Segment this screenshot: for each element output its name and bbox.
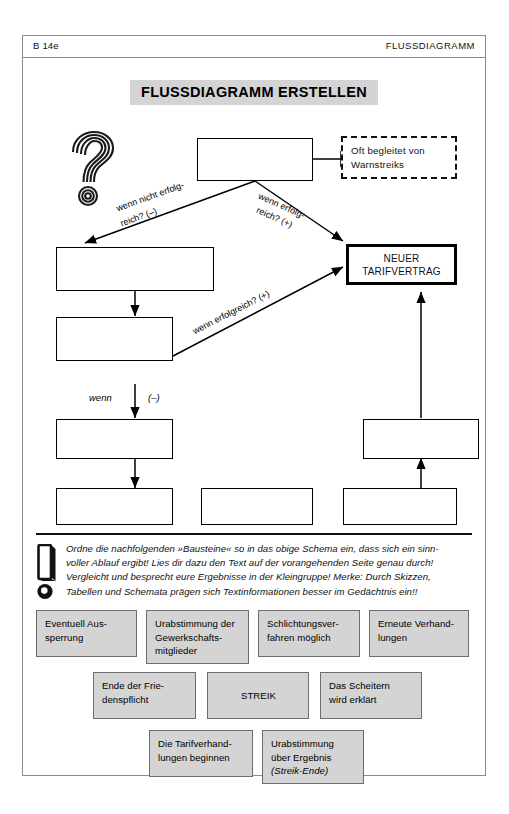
instruction-line-4: Tabellen und Schemata prägen sich Textin…: [66, 585, 472, 599]
tile-line: Erneute Verhand-: [378, 617, 461, 631]
tile-line: wird erklärt: [329, 693, 414, 707]
flow-box-result[interactable]: NEUER TARIFVERTRAG: [346, 244, 457, 285]
tile-line: denspflicht: [102, 693, 188, 707]
tile-line: Gewerkschafts-: [155, 631, 241, 645]
flowchart-diagram: Oft begleitet von Warnstreiks NEUER TARI…: [23, 36, 487, 506]
flow-box-top-center[interactable]: [197, 138, 313, 181]
instruction-divider: [36, 533, 472, 535]
flow-box-bottom-center[interactable]: [201, 488, 313, 525]
edge-label-wenn-word: wenn: [89, 392, 112, 403]
tile-line: über Ergebnis: [271, 751, 356, 765]
tile-line: mitglieder: [155, 644, 241, 658]
tile-schlichtungsverfahren[interactable]: Schlichtungsver- fahren möglich: [258, 610, 360, 657]
tile-line: fahren möglich: [267, 631, 352, 645]
tile-streik[interactable]: STREIK: [207, 672, 309, 719]
tile-erneute-verhandlungen[interactable]: Erneute Verhand- lungen: [369, 610, 469, 657]
tile-line: Schlichtungsver-: [267, 617, 352, 631]
building-block-bank: Eventuell Aus- sperrung Urabstimmung der…: [36, 610, 472, 765]
tile-ende-friedenspflicht[interactable]: Ende der Frie- denspflicht: [93, 672, 196, 719]
flow-box-left-lower[interactable]: [56, 419, 173, 459]
instruction-block: Ordne die nachfolgenden »Bausteine« so i…: [36, 542, 472, 604]
instruction-line-2: voller Ablauf ergibt! Lies dir dazu den …: [66, 556, 472, 570]
flow-box-left-upper[interactable]: [56, 247, 214, 291]
flow-note-warnstreiks: Oft begleitet von Warnstreiks: [341, 136, 457, 179]
tile-line: STREIK: [216, 689, 301, 703]
tile-line: lungen: [378, 631, 461, 645]
worksheet-frame: B 14e FLUSSDIAGRAMM FLUSSDIAGRAMM ERSTEL…: [22, 35, 486, 776]
tile-line: Urabstimmung: [271, 737, 356, 751]
flow-note-warnstreiks-label: Oft begleitet von Warnstreiks: [351, 144, 449, 172]
tile-tarifverhandlungen-beginnen[interactable]: Die Tarifverhand- lungen beginnen: [149, 730, 253, 777]
instruction-line-1: Ordne die nachfolgenden »Bausteine« so i…: [66, 542, 472, 556]
tile-line: sperrung: [45, 631, 129, 645]
flow-box-left-middle[interactable]: [56, 317, 173, 361]
tile-line-italic: (Streik-Ende): [271, 764, 356, 778]
tile-line: Ende der Frie-: [102, 679, 188, 693]
tile-eventuell-aussperrung[interactable]: Eventuell Aus- sperrung: [36, 610, 137, 657]
tile-urabstimmung-gewerkschaftsmitglieder[interactable]: Urabstimmung der Gewerkschafts- mitglied…: [146, 610, 249, 664]
flow-box-result-label: NEUER TARIFVERTRAG: [349, 252, 454, 278]
worksheet-page: B 14e FLUSSDIAGRAMM FLUSSDIAGRAMM ERSTEL…: [0, 0, 509, 814]
tile-line: lungen beginnen: [158, 751, 245, 765]
exclamation-mark-icon: [36, 544, 58, 600]
instruction-line-3: Vergleicht und besprecht eure Ergebnisse…: [66, 570, 472, 584]
instruction-text: Ordne die nachfolgenden »Bausteine« so i…: [66, 542, 472, 599]
edge-label-wenn-sign: (–): [148, 392, 160, 403]
flow-box-bottom-left[interactable]: [56, 488, 173, 525]
tile-line: Urabstimmung der: [155, 617, 241, 631]
tile-das-scheitern[interactable]: Das Scheitern wird erklärt: [320, 672, 422, 719]
tile-line: Die Tarifverhand-: [158, 737, 245, 751]
tile-line: Eventuell Aus-: [45, 617, 129, 631]
tile-urabstimmung-ergebnis[interactable]: Urabstimmung über Ergebnis (Streik-Ende): [262, 730, 364, 784]
flow-box-right-middle[interactable]: [363, 419, 479, 459]
flow-box-bottom-right[interactable]: [343, 488, 457, 525]
tile-line: Das Scheitern: [329, 679, 414, 693]
